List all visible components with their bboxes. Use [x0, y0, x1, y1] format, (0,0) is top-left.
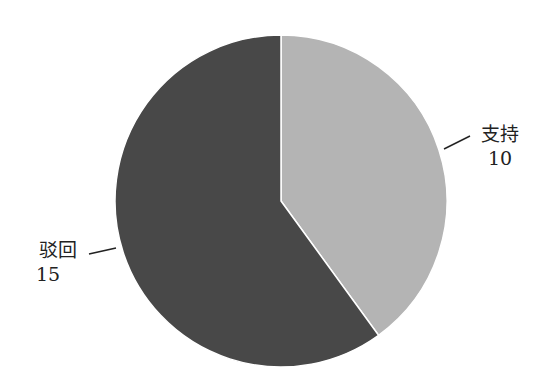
pie-chart	[0, 0, 549, 390]
label-reject-value: 15	[30, 262, 86, 286]
label-reject: 驳回 15	[30, 238, 86, 286]
label-reject-name: 驳回	[30, 238, 86, 262]
label-support: 支持 10	[472, 122, 528, 170]
pie-slices	[115, 35, 447, 367]
leader-line-reject	[89, 248, 116, 254]
label-support-value: 10	[472, 146, 528, 170]
label-support-name: 支持	[472, 122, 528, 146]
leader-line-support	[444, 136, 470, 149]
